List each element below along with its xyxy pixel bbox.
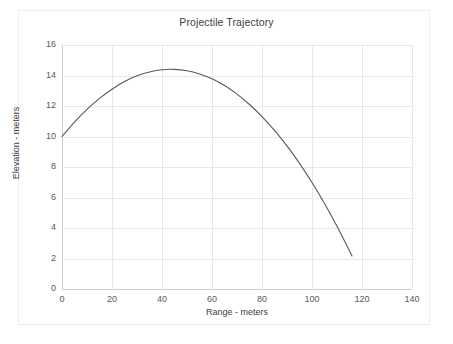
y-tick-label: 2 [30,253,56,263]
y-tick-label: 6 [30,192,56,202]
y-axis-title: Elevation - meters [11,83,21,203]
x-tick-label: 140 [392,294,432,304]
x-axis-title: Range - meters [62,307,412,317]
x-tick-label: 20 [92,294,132,304]
chart-container: Projectile Trajectory 0246810121416 0204… [0,0,453,344]
x-tick-label: 100 [292,294,332,304]
x-tick-label: 60 [192,294,232,304]
y-tick-label: 10 [30,131,56,141]
x-tick-label: 0 [42,294,82,304]
x-tick-label: 120 [342,294,382,304]
grid-lines [62,45,413,290]
y-tick-label: 4 [30,222,56,232]
plot-area [0,0,453,344]
y-tick-label: 14 [30,70,56,80]
y-tick-label: 8 [30,161,56,171]
x-tick-label: 80 [242,294,282,304]
y-tick-label: 12 [30,100,56,110]
y-tick-label: 16 [30,39,56,49]
y-tick-label: 0 [30,283,56,293]
x-tick-label: 40 [142,294,182,304]
